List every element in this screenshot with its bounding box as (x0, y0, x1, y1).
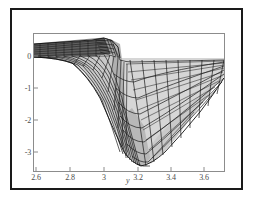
surface-mesh-group (34, 38, 224, 166)
y-tick-label: -1 (18, 84, 31, 93)
x-tick-label: 3 (102, 173, 106, 182)
y-tick-label: -3 (18, 148, 31, 157)
x-tick-label: 3.4 (166, 173, 175, 182)
x-tick-label: 2.8 (65, 173, 74, 182)
x-tick-label: 3.6 (199, 173, 208, 182)
x-axis-title: y (126, 176, 130, 185)
surface-plot-canvas (0, 0, 253, 201)
x-tick-label: 3.2 (133, 173, 142, 182)
figure-page: 2.6 2.8 3 3.2 3.4 3.6 y 0 -1 -2 -3 (0, 0, 253, 201)
y-tick-label: -2 (18, 116, 31, 125)
y-tick-label: 0 (22, 52, 31, 61)
x-tick-label: 2.6 (31, 173, 40, 182)
